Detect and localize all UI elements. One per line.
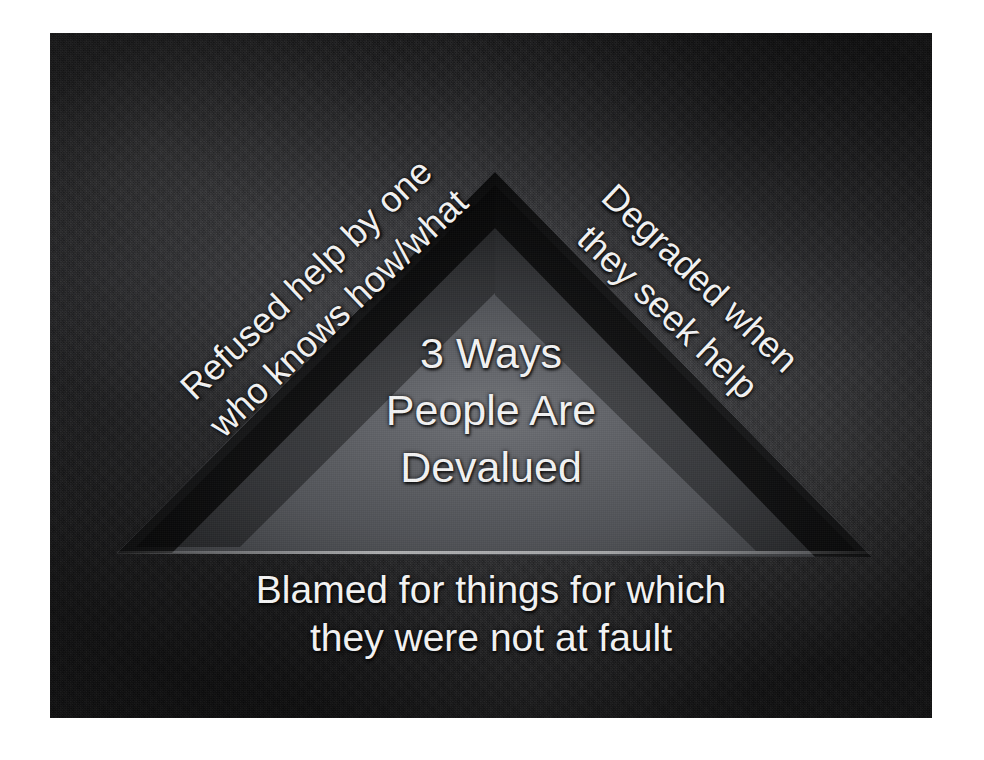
bottom-label: Blamed for things for which they were no… (50, 566, 932, 662)
bottom-label-line-2: they were not at fault (50, 614, 932, 662)
triangle-base-highlight (117, 551, 872, 554)
slide-canvas: 3 Ways People Are Devalued Refused help … (0, 0, 984, 760)
bottom-label-line-1: Blamed for things for which (50, 566, 932, 614)
presentation-slide: 3 Ways People Are Devalued Refused help … (50, 33, 932, 718)
